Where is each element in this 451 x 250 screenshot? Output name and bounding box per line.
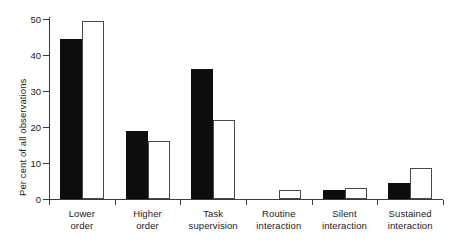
bar-white-task-supervision: [213, 120, 235, 199]
category-label-line2: supervision: [180, 220, 246, 232]
y-axis-line: [49, 17, 50, 200]
category-label-line2: interaction: [312, 220, 378, 232]
bar-black-silent-interaction: [323, 190, 345, 199]
category-label-higher-order: Higherorder: [115, 208, 181, 231]
y-tick-label: 50: [3, 14, 41, 25]
category-label-task-supervision: Tasksupervision: [180, 208, 246, 231]
y-tick-label: 20: [3, 122, 41, 133]
bar-white-sustained-interaction: [410, 168, 432, 199]
x-tick-mark: [115, 200, 116, 205]
bar-white-silent-interaction: [345, 188, 367, 199]
category-label-sustained-interaction: Sustainedinteraction: [377, 208, 443, 231]
bar-white-routine-interaction: [279, 190, 301, 199]
category-label-silent-interaction: Silentinteraction: [312, 208, 378, 231]
category-label-routine-interaction: Routineinteraction: [246, 208, 312, 231]
bar-chart-figure: Per cent of all observations 01020304050…: [0, 0, 451, 250]
category-label-line2: order: [49, 220, 115, 232]
category-label-line1: Silent: [332, 208, 356, 219]
category-label-line1: Higher: [133, 208, 162, 219]
bar-black-lower-order: [60, 39, 82, 199]
x-tick-mark: [246, 200, 247, 205]
bar-black-higher-order: [126, 131, 148, 199]
category-label-line1: Lower: [69, 208, 95, 219]
bar-white-higher-order: [148, 141, 170, 199]
category-label-line1: Task: [203, 208, 223, 219]
x-tick-mark: [377, 200, 378, 205]
category-label-line2: interaction: [377, 220, 443, 232]
y-tick-label: 10: [3, 158, 41, 169]
bar-black-sustained-interaction: [388, 183, 410, 199]
category-label-line2: interaction: [246, 220, 312, 232]
x-tick-mark: [443, 200, 444, 205]
y-tick-label: 40: [3, 50, 41, 61]
x-tick-mark: [180, 200, 181, 205]
category-label-line1: Routine: [262, 208, 295, 219]
y-tick-label: 0: [3, 194, 41, 205]
x-tick-mark-origin: [49, 200, 50, 205]
category-label-lower-order: Lowerorder: [49, 208, 115, 231]
x-tick-mark: [312, 200, 313, 205]
bar-white-lower-order: [82, 21, 104, 199]
category-label-line2: order: [115, 220, 181, 232]
bar-black-task-supervision: [191, 69, 213, 199]
category-label-line1: Sustained: [389, 208, 432, 219]
y-tick-label: 30: [3, 86, 41, 97]
